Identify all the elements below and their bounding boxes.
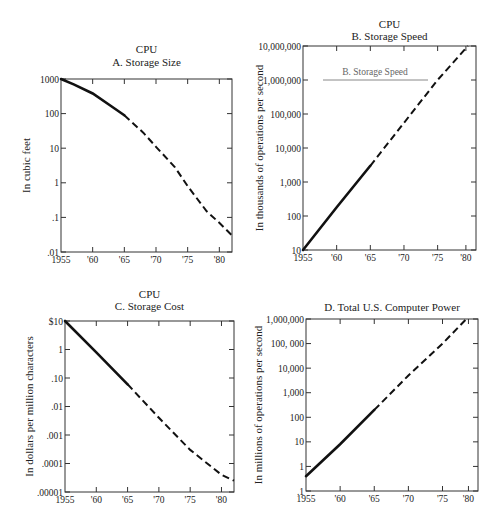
chart-supertitle: CPU <box>139 288 160 300</box>
y-tick-label: 100 <box>287 212 302 222</box>
chart-panel-c: CPUC. Storage Cost$101.10.01.001.0001.00… <box>23 288 234 505</box>
series-line-projected <box>374 319 466 410</box>
y-tick-label: 10 <box>50 144 60 154</box>
y-tick-label: 10,000 <box>278 364 304 374</box>
y-tick-label: 1 <box>54 178 59 188</box>
chart-panel-d: D. Total U.S. Computer Power1,000,000100… <box>252 301 478 504</box>
y-axis-title: In cubic feet <box>20 138 32 193</box>
series-line-actual <box>306 410 374 476</box>
y-tick-label: 1,000,000 <box>263 76 301 86</box>
y-tick-label: $10 <box>49 317 64 327</box>
y-axis-title: In dollars per million characters <box>23 336 35 477</box>
chart-panel-b: CPUB. Storage Speed10,000,0001,000,00010… <box>253 18 476 263</box>
x-tick-label: '60 <box>87 255 98 265</box>
x-tick-label: 1955 <box>56 495 75 505</box>
series-line-projected <box>370 46 468 166</box>
x-tick-label: '70 <box>150 255 161 265</box>
x-tick-label: '60 <box>331 253 342 263</box>
y-tick-label: .0001 <box>42 459 64 469</box>
y-tick-label: 1 <box>299 462 304 472</box>
chart-title: C. Storage Cost <box>115 300 184 312</box>
x-tick-label: '70 <box>398 253 409 263</box>
series-line-actual <box>61 79 124 115</box>
x-tick-label: '60 <box>335 494 346 504</box>
x-tick-label: '70 <box>153 495 164 505</box>
y-tick-label: 1,000,000 <box>266 315 304 325</box>
chart-title: A. Storage Size <box>112 56 181 68</box>
x-tick-label: '65 <box>119 255 130 265</box>
chart-canvas: CPUA. Storage Size1000100101.1.011955'60… <box>0 0 499 528</box>
legend-label: B. Storage Speed <box>342 67 408 77</box>
x-tick-label: '75 <box>182 255 193 265</box>
y-tick-label: .001 <box>46 431 63 441</box>
x-tick-label: '80 <box>216 495 227 505</box>
chart-title: B. Storage Speed <box>351 30 428 42</box>
series-line-projected <box>128 384 234 480</box>
y-tick-label: 100 <box>45 109 60 119</box>
plot-frame <box>61 79 232 252</box>
y-tick-label: 1,000 <box>283 388 305 398</box>
x-tick-label: '75 <box>432 253 443 263</box>
y-tick-label: 100, 000 <box>271 339 305 349</box>
y-tick-label: 10 <box>295 437 305 447</box>
y-tick-label: 10,000,000 <box>258 42 301 52</box>
y-axis-title: In thousands of operations per second <box>253 64 265 231</box>
x-tick-label: '60 <box>91 495 102 505</box>
x-tick-label: '80 <box>460 253 471 263</box>
x-tick-label: '65 <box>369 494 380 504</box>
x-tick-label: 1955 <box>52 255 71 265</box>
y-tick-label: .10 <box>51 374 63 384</box>
y-tick-label: 1 <box>58 345 63 355</box>
x-tick-label: '70 <box>403 494 414 504</box>
x-tick-label: 1955 <box>297 494 316 504</box>
chart-panel-a: CPUA. Storage Size1000100101.1.011955'60… <box>20 43 232 265</box>
y-tick-label: 1,000 <box>280 178 302 188</box>
x-tick-label: '65 <box>122 495 133 505</box>
x-tick-label: '80 <box>214 255 225 265</box>
x-tick-label: 1955 <box>294 253 313 263</box>
chart-supertitle: CPU <box>136 43 157 55</box>
x-tick-label: '75 <box>437 494 448 504</box>
y-axis-title: In millions of operations per second <box>252 325 264 484</box>
x-tick-label: '80 <box>463 494 474 504</box>
series-line-projected <box>124 115 232 235</box>
y-tick-label: 1000 <box>40 75 59 85</box>
chart-supertitle: CPU <box>379 18 400 30</box>
y-tick-label: .01 <box>51 402 63 412</box>
x-tick-label: '75 <box>185 495 196 505</box>
y-tick-label: .1 <box>52 213 59 223</box>
chart-title: D. Total U.S. Computer Power <box>324 301 460 313</box>
plot-frame <box>306 319 478 491</box>
series-line-actual <box>65 321 128 384</box>
y-tick-label: 100,000 <box>270 110 301 120</box>
series-line-actual <box>303 166 370 250</box>
y-tick-label: 10,000 <box>275 144 301 154</box>
y-tick-label: 100 <box>290 413 305 423</box>
x-tick-label: '65 <box>365 253 376 263</box>
